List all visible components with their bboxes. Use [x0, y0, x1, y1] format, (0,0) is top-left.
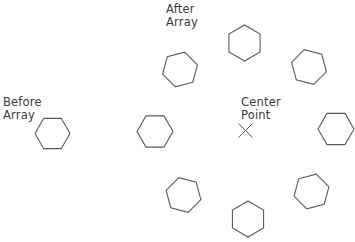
- before-array-label: Before Array: [3, 96, 42, 122]
- before-array-label-line2: Array: [3, 109, 42, 122]
- before-array-hexagon: [35, 118, 70, 148]
- array-hexagon-lower-right: [294, 174, 329, 209]
- after-array-label-line2: Array: [166, 16, 198, 29]
- center-point-label-line2: Point: [241, 109, 281, 122]
- array-hexagon-left: [137, 116, 173, 147]
- center-point-label: Center Point: [241, 96, 281, 122]
- after-array-label: After Array: [166, 3, 198, 29]
- array-hexagon-upper-left: [163, 52, 198, 87]
- diagram-canvas: [0, 0, 355, 242]
- center-point-x-icon: [239, 124, 253, 138]
- array-hexagon-lower-left: [166, 178, 201, 213]
- array-hexagon-top: [229, 25, 260, 61]
- hexagon-layer: [35, 25, 354, 237]
- array-hexagon-bottom: [232, 201, 263, 237]
- array-hexagon-upper-right: [292, 50, 327, 85]
- array-hexagon-right: [318, 113, 354, 144]
